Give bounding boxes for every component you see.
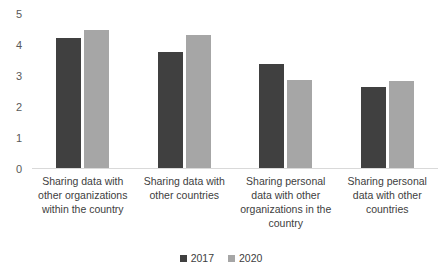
bar-2020 bbox=[389, 81, 414, 168]
bar-group bbox=[134, 13, 236, 168]
x-axis-category-label: Sharing personal data with other countri… bbox=[337, 172, 439, 244]
legend-label: 2017 bbox=[191, 253, 214, 264]
y-axis-tick-label: 1 bbox=[16, 133, 22, 144]
bar-group bbox=[235, 13, 337, 168]
x-axis-line bbox=[32, 168, 438, 169]
bar-group bbox=[337, 13, 439, 168]
x-axis-category-label: Sharing data with other organizations wi… bbox=[32, 172, 134, 244]
bar-2017 bbox=[361, 87, 386, 168]
bar-2020 bbox=[84, 30, 109, 168]
y-axis-tick-label: 0 bbox=[16, 164, 22, 175]
x-axis-category-label: Sharing data with other countries bbox=[134, 172, 236, 244]
y-axis-tick-label: 3 bbox=[16, 71, 22, 82]
bar-2017 bbox=[158, 52, 183, 168]
y-axis-tick-label: 4 bbox=[16, 40, 22, 51]
bar-2017 bbox=[259, 64, 284, 168]
x-axis-category-labels: Sharing data with other organizations wi… bbox=[32, 172, 438, 244]
bar-chart: 5 4 3 2 1 0 Sharing data with other orga… bbox=[0, 0, 442, 274]
legend-item-2017: 2017 bbox=[180, 253, 214, 264]
x-axis-category-label: Sharing personal data with other organiz… bbox=[235, 172, 337, 244]
y-axis-tick-label: 5 bbox=[16, 9, 22, 20]
bar-2017 bbox=[56, 38, 81, 168]
legend-label: 2020 bbox=[239, 253, 262, 264]
legend-swatch-icon bbox=[228, 255, 235, 262]
plot-area bbox=[32, 13, 438, 168]
legend-swatch-icon bbox=[180, 255, 187, 262]
legend-item-2020: 2020 bbox=[228, 253, 262, 264]
y-axis: 5 4 3 2 1 0 bbox=[0, 0, 30, 180]
bar-group bbox=[32, 13, 134, 168]
bar-2020 bbox=[186, 35, 211, 168]
chart-legend: 2017 2020 bbox=[0, 253, 442, 264]
bar-2020 bbox=[287, 80, 312, 168]
y-axis-tick-label: 2 bbox=[16, 102, 22, 113]
